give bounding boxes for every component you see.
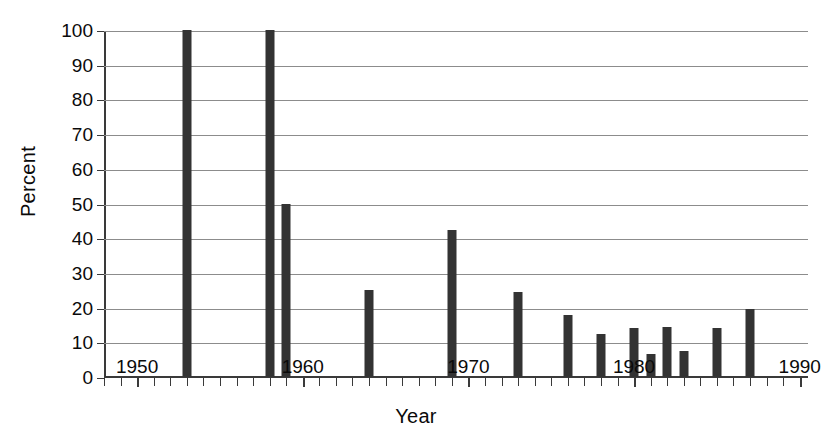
bar: [365, 290, 374, 377]
y-tick: [97, 135, 104, 136]
y-axis-label: Percent: [17, 92, 40, 272]
x-tick-minor: [319, 378, 320, 386]
y-tick-label: 70: [72, 124, 93, 146]
x-tick-minor: [551, 378, 552, 386]
y-tick-label: 50: [72, 194, 93, 216]
x-tick-minor: [767, 378, 768, 386]
y-tick-label: 30: [72, 263, 93, 285]
bar: [746, 309, 755, 377]
x-tick-major: [303, 378, 305, 387]
gridline: [104, 31, 808, 32]
y-tick-label: 0: [82, 367, 93, 389]
x-tick-minor: [568, 378, 569, 386]
bar: [712, 328, 721, 377]
y-tick-label: 80: [72, 89, 93, 111]
x-tick-minor: [386, 378, 387, 386]
x-tick-minor: [783, 378, 784, 386]
x-tick-minor: [601, 378, 602, 386]
y-tick-label: 90: [72, 55, 93, 77]
x-tick-minor: [485, 378, 486, 386]
bar: [663, 327, 672, 377]
bar: [596, 334, 605, 377]
x-tick-minor: [684, 378, 685, 386]
x-tick-major: [468, 378, 470, 387]
x-tick-minor: [369, 378, 370, 386]
x-tick-minor: [419, 378, 420, 386]
x-tick-minor: [733, 378, 734, 386]
x-tick-major: [634, 378, 636, 387]
x-tick-minor: [121, 378, 122, 386]
x-tick-minor: [187, 378, 188, 386]
y-tick-label: 20: [72, 298, 93, 320]
x-tick-minor: [435, 378, 436, 386]
x-tick-minor: [717, 378, 718, 386]
x-tick-minor: [286, 378, 287, 386]
x-tick-minor: [170, 378, 171, 386]
y-tick: [97, 31, 104, 32]
x-tick-minor: [750, 378, 751, 386]
plot-area: 0102030405060708090100: [104, 31, 808, 378]
x-tick-label: 1970: [447, 356, 489, 378]
bar: [679, 351, 688, 377]
x-tick-minor: [667, 378, 668, 386]
x-tick-minor: [402, 378, 403, 386]
bar: [447, 230, 456, 377]
y-tick: [97, 66, 104, 67]
bar: [282, 204, 291, 378]
x-tick-major: [137, 378, 139, 387]
x-tick-label: 1950: [116, 356, 158, 378]
x-tick-major: [800, 378, 802, 387]
y-tick: [97, 274, 104, 275]
x-tick-minor: [452, 378, 453, 386]
x-tick-minor: [518, 378, 519, 386]
y-tick: [97, 170, 104, 171]
x-tick-minor: [237, 378, 238, 386]
y-tick: [97, 100, 104, 101]
y-tick-label: 100: [61, 20, 93, 42]
y-tick: [97, 205, 104, 206]
gridline: [104, 170, 808, 171]
x-tick-minor: [154, 378, 155, 386]
x-tick-minor: [700, 378, 701, 386]
y-tick-label: 10: [72, 332, 93, 354]
x-tick-minor: [104, 378, 105, 386]
x-tick-label: 1980: [613, 356, 655, 378]
y-tick: [97, 343, 104, 344]
gridline: [104, 135, 808, 136]
x-tick-minor: [651, 378, 652, 386]
x-tick-minor: [253, 378, 254, 386]
bar: [265, 30, 274, 377]
x-tick-minor: [502, 378, 503, 386]
x-tick-minor: [535, 378, 536, 386]
x-tick-label: 1990: [779, 356, 821, 378]
bar-chart-figure: Percent Year 0102030405060708090100 1950…: [0, 0, 832, 445]
x-tick-minor: [584, 378, 585, 386]
x-tick-label: 1960: [282, 356, 324, 378]
y-tick: [97, 239, 104, 240]
x-tick-minor: [203, 378, 204, 386]
y-tick: [97, 378, 104, 379]
gridline: [104, 100, 808, 101]
x-axis-label: Year: [0, 405, 832, 428]
gridline: [104, 205, 808, 206]
y-tick-label: 40: [72, 228, 93, 250]
x-tick-minor: [270, 378, 271, 386]
y-tick-label: 60: [72, 159, 93, 181]
bar: [514, 292, 523, 377]
x-tick-minor: [220, 378, 221, 386]
y-tick: [97, 309, 104, 310]
bar: [182, 30, 191, 377]
gridline: [104, 66, 808, 67]
bar: [563, 315, 572, 377]
x-tick-minor: [336, 378, 337, 386]
x-tick-minor: [618, 378, 619, 386]
x-tick-minor: [352, 378, 353, 386]
